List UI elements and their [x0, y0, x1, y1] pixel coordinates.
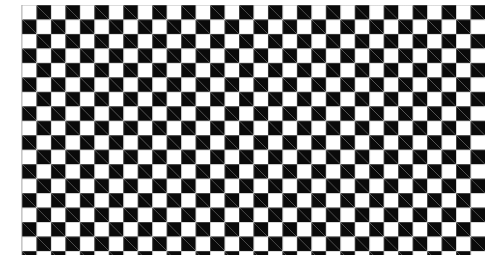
checkerboard: Checkerboard pattern: [21, 5, 485, 255]
grid-lines: [22, 5, 485, 255]
